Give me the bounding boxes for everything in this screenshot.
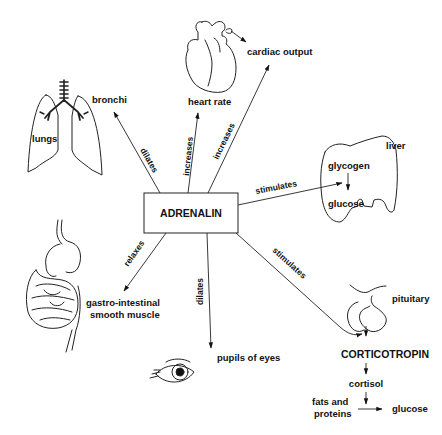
edge-stimulates-pituitary [236,233,362,335]
edge-increases-co [208,65,269,193]
adrenalin-label: ADRENALIN [160,207,222,219]
cardiac-output-label: cardiac output [247,46,313,57]
corticotropin-label: CORTICOTROPIN [341,348,429,360]
fats-label-line1: fats and [312,396,349,407]
gi-label-line1: gastro-intestinal [86,297,160,308]
eye-icon [150,359,194,382]
pituitary-icon [347,285,386,332]
liver-label: liver [386,140,406,151]
lungs-icon [28,80,102,175]
edge-label-stimulates-pituitary: stimulates [271,245,309,281]
glycogen-label: glycogen [328,160,370,171]
edge-label-increases-hr: increases [181,136,195,176]
heart-rate-label: heart rate [188,96,231,107]
glucose-final-label: glucose [392,403,428,414]
adrenalin-node: ADRENALIN [144,193,238,233]
pupils-label: pupils of eyes [217,352,280,363]
glucose-liver-label: glucose [328,198,364,209]
edge-label-dilates-pupils: dilates [195,278,205,305]
pituitary-label: pituitary [392,293,430,304]
fats-label-line2: proteins [314,408,351,419]
gi-label-line2: smooth muscle [90,309,160,320]
edge-dilates-pupils [207,233,211,348]
edge-label-relaxes-gi: relaxes [121,238,146,268]
adrenalin-diagram: ADRENALIN lungs bronchi heart rate cardi… [0,0,442,435]
intestines-icon [26,220,80,352]
edge-dilates-bronchi [114,112,160,193]
bronchi-label: bronchi [92,94,127,105]
cortisol-label: cortisol [349,378,383,389]
heart-icon [186,21,236,92]
lungs-label: lungs [32,133,57,144]
